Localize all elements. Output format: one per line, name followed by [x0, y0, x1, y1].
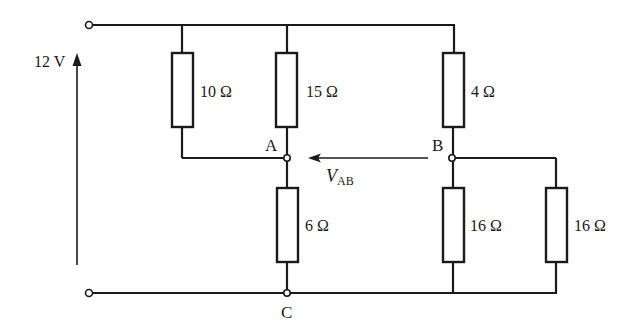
- circuit-schematic: [0, 0, 635, 330]
- resistor-16-ohm-left-label: 16 Ω: [470, 218, 502, 234]
- bottom-terminal: [86, 290, 93, 297]
- resistor-15-ohm-label: 15 Ω: [306, 84, 338, 100]
- node-b-label: B: [432, 137, 443, 154]
- node-a-label: A: [265, 137, 277, 154]
- vab-symbol: V: [326, 166, 337, 186]
- resistor-6-ohm-label: 6 Ω: [305, 218, 329, 234]
- top-terminal: [86, 22, 93, 29]
- resistor-10-ohm-label: 10 Ω: [200, 84, 232, 100]
- resistor-16-ohm-right: [546, 188, 567, 262]
- node-a: [284, 155, 290, 161]
- circuit-diagram: 12 V 10 Ω 15 Ω 4 Ω 6 Ω 16 Ω 16 Ω A B C V…: [0, 0, 635, 330]
- vab-label: VAB: [326, 167, 354, 187]
- voltage-arrow-head-icon: [73, 53, 82, 66]
- resistor-15-ohm: [276, 53, 297, 127]
- resistor-10-ohm: [172, 53, 193, 127]
- node-c-label: C: [281, 304, 292, 321]
- resistor-4-ohm: [443, 53, 464, 127]
- resistor-16-ohm-right-label: 16 Ω: [574, 218, 606, 234]
- resistor-4-ohm-label: 4 Ω: [471, 84, 495, 100]
- node-b: [449, 155, 455, 161]
- resistor-16-ohm-left: [443, 188, 464, 262]
- vab-subscript: AB: [337, 174, 354, 188]
- node-c: [284, 290, 290, 296]
- resistor-6-ohm: [277, 188, 298, 262]
- source-voltage-label: 12 V: [34, 54, 65, 70]
